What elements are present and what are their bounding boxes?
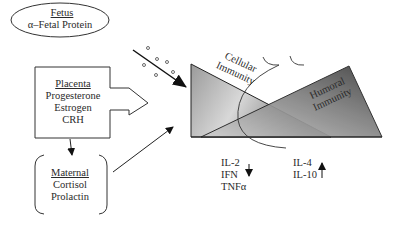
dot — [166, 61, 169, 64]
curve-left-hook — [263, 57, 279, 65]
maternal-title: Maternal — [42, 167, 98, 179]
maternal-item: Prolactin — [42, 191, 98, 203]
th1-cytokine: TNFα — [221, 181, 246, 193]
curve-right-hook — [290, 56, 304, 65]
th1-cytokine: IL-2 — [221, 157, 240, 169]
dot — [172, 71, 175, 74]
maternal-right-bracket — [99, 155, 107, 214]
placenta-to-maternal-arrow — [70, 139, 72, 155]
placenta-item: Progesterone — [36, 90, 110, 102]
dot — [147, 47, 150, 50]
dot — [156, 58, 159, 61]
placenta-item: CRH — [36, 114, 110, 126]
placenta-item: Estrogen — [36, 102, 110, 114]
maternal-to-immunity-arrow — [113, 127, 173, 172]
fetus-item: α–Fetal Protein — [20, 19, 100, 31]
placenta-title: Placenta — [36, 78, 110, 90]
th2-cytokine: IL-4 — [293, 157, 312, 169]
th1-cytokine: IFN — [221, 169, 238, 181]
diagram: Fetus α–Fetal Protein Placenta Progester… — [0, 0, 395, 229]
dot — [143, 64, 146, 67]
th2-cytokine: IL-10 — [293, 169, 317, 181]
fetus-title: Fetus — [42, 7, 82, 19]
maternal-item: Cortisol — [42, 179, 98, 191]
fetus-to-immunity-arrow — [133, 50, 186, 87]
molecule-dots — [143, 47, 175, 77]
dot — [155, 74, 158, 77]
